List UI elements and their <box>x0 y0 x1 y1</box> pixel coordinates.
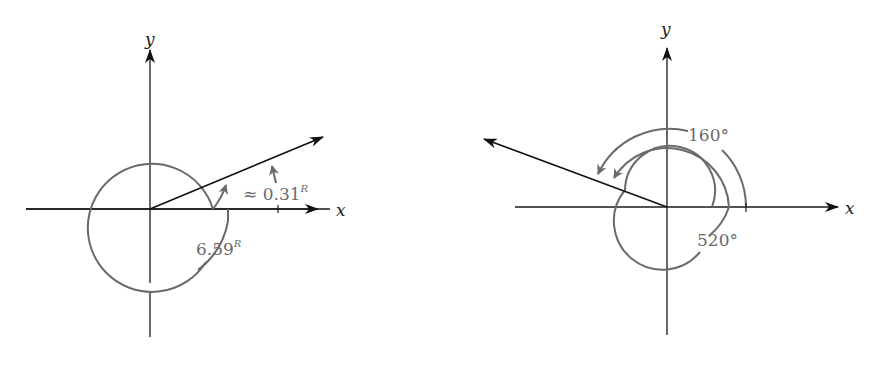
arc-160-arrow <box>598 129 688 174</box>
small-angle-arrow <box>272 166 276 183</box>
right-diagram: y x 160° 520° <box>484 19 855 335</box>
arc-520-middle <box>614 148 729 236</box>
arc-160 <box>722 150 746 207</box>
x-axis-label: x <box>336 200 346 220</box>
small-angle-label: ≈ 0.31R <box>243 183 309 204</box>
large-angle-label: 6.59R <box>196 238 242 259</box>
terminal-ray <box>484 139 667 207</box>
large-angle-arrow <box>213 185 226 209</box>
y-axis-label: y <box>144 29 155 49</box>
angle-520-label: 520° <box>697 230 738 250</box>
left-diagram: y x ≈ 0.31R 6.59R <box>26 29 346 337</box>
x-axis-label: x <box>845 198 855 218</box>
arc-520-inner <box>614 146 715 270</box>
figure-canvas: y x ≈ 0.31R 6.59R y x 160° 520° <box>0 0 875 366</box>
y-axis-label: y <box>660 19 671 39</box>
coterminal-angles-figure: y x ≈ 0.31R 6.59R y x 160° 520° <box>0 0 875 366</box>
angle-160-label: 160° <box>688 125 729 145</box>
